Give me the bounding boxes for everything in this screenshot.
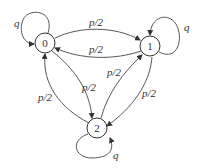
edge-label-1-0: p/2 (88, 43, 104, 55)
node-2: 2 (87, 118, 107, 138)
edge-2-1 (101, 55, 142, 118)
svg-text:2: 2 (94, 122, 100, 134)
node-0: 0 (35, 33, 55, 53)
edge-label-1-1: q (184, 21, 190, 33)
edge-label-0-2: p/2 (81, 81, 97, 93)
edge-label-2-1: p/2 (106, 66, 122, 78)
edge-label-0-1: p/2 (88, 16, 104, 28)
edge-label-2-0: p/2 (37, 91, 53, 103)
svg-text:1: 1 (147, 40, 153, 52)
state-diagram: q q q p/2 p/2 p/2 p/2 p/2 p/2 0 1 2 (0, 0, 199, 168)
edge-label-2-2: q (113, 149, 119, 161)
edge-0-1 (55, 29, 140, 40)
edge-label-0-0: q (14, 17, 20, 29)
svg-text:0: 0 (42, 37, 48, 49)
edge-label-1-2: p/2 (141, 87, 157, 99)
node-1: 1 (140, 36, 160, 56)
